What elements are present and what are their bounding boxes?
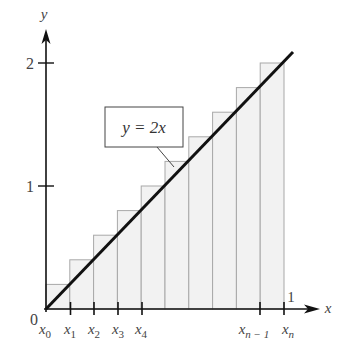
origin-label: 0 bbox=[30, 311, 38, 328]
x-tick-label-3: x3 bbox=[111, 321, 125, 340]
y-tick-label-2: 2 bbox=[26, 55, 34, 72]
riemann-diagram: y = 2x y x 2 1 0 1 x0 x1 x2 x3 x4 xn − 1… bbox=[0, 0, 350, 360]
y-tick-label-1: 1 bbox=[26, 178, 34, 195]
x-tick-label-n: xn bbox=[281, 321, 295, 340]
x-axis-label: x bbox=[324, 300, 332, 316]
rectangle-7 bbox=[189, 137, 213, 309]
rectangle-10 bbox=[260, 63, 284, 309]
y-axis-label: y bbox=[39, 6, 48, 22]
rectangle-4 bbox=[117, 211, 141, 309]
x-tick-label-0: x0 bbox=[38, 321, 52, 340]
x-tick-label-4: x4 bbox=[134, 321, 148, 340]
rectangle-2 bbox=[70, 260, 94, 309]
x-tick-label-1: x1 bbox=[63, 321, 76, 340]
rectangle-8 bbox=[213, 112, 237, 309]
x-end-label: 1 bbox=[287, 289, 295, 305]
rectangle-9 bbox=[236, 88, 260, 309]
x-tick-label-2: x2 bbox=[87, 321, 100, 340]
x-tick-labels: x0 x1 x2 x3 x4 xn − 1 xn bbox=[38, 321, 295, 340]
x-tick-label-n-minus-1: xn − 1 bbox=[238, 321, 270, 340]
function-label: y = 2x bbox=[120, 118, 166, 137]
